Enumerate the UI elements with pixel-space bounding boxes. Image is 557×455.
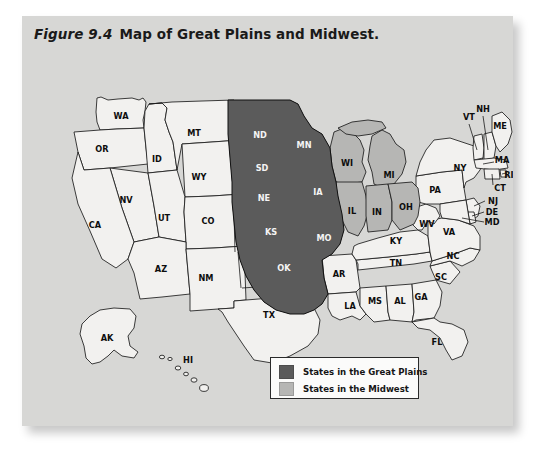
state-label-LA: LA	[344, 301, 356, 311]
state-label-KS: KS	[265, 227, 277, 237]
state-label-KY: KY	[390, 236, 403, 246]
state-label-PA: PA	[429, 185, 441, 195]
state-label-WY: WY	[192, 172, 208, 182]
state-label-AZ: AZ	[155, 264, 167, 274]
state-label-NJ: NJ	[488, 196, 498, 206]
figure-number: Figure 9.4	[34, 26, 113, 42]
legend-label-midwest: States in the Midwest	[303, 384, 409, 394]
state-label-IA: IA	[313, 187, 323, 197]
state-label-NE: NE	[258, 193, 270, 203]
state-label-MD: MD	[485, 217, 500, 227]
state-label-HI: HI	[183, 355, 193, 365]
state-label-CT: CT	[494, 183, 506, 193]
state-label-MO: MO	[316, 233, 331, 243]
state-label-CO: CO	[202, 216, 215, 226]
state-label-OK: OK	[277, 263, 291, 273]
state-label-MN: MN	[297, 140, 312, 150]
legend-swatch-great-plains-icon	[279, 365, 294, 379]
state-label-IL: IL	[348, 206, 356, 216]
state-label-NY: NY	[454, 163, 468, 173]
state-label-MS: MS	[368, 296, 382, 306]
state-label-MT: MT	[187, 128, 201, 138]
state-label-NC: NC	[447, 251, 460, 261]
map-legend: States in the Great Plains States in the…	[270, 357, 419, 399]
state-label-MI: MI	[383, 170, 394, 180]
state-label-ME: ME	[493, 121, 507, 131]
state-label-AK: AK	[101, 333, 114, 343]
legend-item-great-plains: States in the Great Plains	[279, 363, 418, 380]
state-label-TX: TX	[263, 310, 276, 320]
state-label-SC: SC	[435, 272, 447, 282]
state-label-IN: IN	[372, 207, 382, 217]
state-label-OR: OR	[95, 144, 109, 154]
state-label-RI: RI	[504, 170, 513, 180]
state-label-DE: DE	[486, 207, 498, 217]
state-label-OH: OH	[399, 202, 413, 212]
state-label-NM: NM	[199, 273, 214, 283]
state-label-ID: ID	[152, 154, 162, 164]
state-label-MA: MA	[495, 155, 510, 165]
us-map-svg: WAORIDMTWYNVCAUTCOAZNMNDSDNEKSOKTXMNIAMO…	[22, 16, 513, 426]
state-label-VT: VT	[463, 112, 475, 122]
figure-caption: Figure 9.4Map of Great Plains and Midwes…	[34, 26, 379, 42]
state-label-WV: WV	[419, 219, 435, 229]
state-label-SD: SD	[256, 163, 269, 173]
state-label-FL: FL	[432, 337, 443, 347]
midwest-WI	[330, 128, 366, 184]
state-VT	[473, 134, 484, 160]
state-label-NH: NH	[476, 104, 490, 114]
state-label-AR: AR	[333, 269, 346, 279]
state-label-NV: NV	[119, 195, 133, 205]
state-label-UT: UT	[158, 213, 171, 223]
state-label-VA: VA	[443, 227, 456, 237]
state-label-GA: GA	[414, 292, 428, 302]
state-label-WI: WI	[341, 158, 353, 168]
state-label-ND: ND	[253, 130, 267, 140]
state-label-WA: WA	[114, 111, 130, 121]
state-OR	[74, 128, 148, 170]
figure-title: Map of Great Plains and Midwest.	[120, 26, 380, 42]
legend-swatch-midwest-icon	[279, 382, 294, 396]
legend-item-midwest: States in the Midwest	[279, 380, 418, 397]
legend-label-great-plains: States in the Great Plains	[303, 367, 427, 377]
state-label-TN: TN	[390, 258, 403, 268]
state-label-CA: CA	[89, 220, 102, 230]
state-label-AL: AL	[394, 296, 406, 306]
map-figure: WAORIDMTWYNVCAUTCOAZNMNDSDNEKSOKTXMNIAMO…	[22, 16, 513, 426]
midwest-layer	[330, 120, 420, 236]
